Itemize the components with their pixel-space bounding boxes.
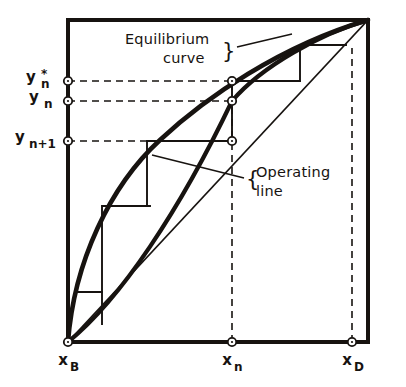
y-label-sub: n: [44, 97, 53, 111]
x-label-sub: B: [70, 360, 79, 374]
annotation-equilibrium-curve: Equilibrium curve }: [125, 31, 235, 66]
marker-xD: [348, 338, 356, 346]
x-axis-label-xD: x D: [342, 351, 364, 374]
leader-equilibrium: [237, 34, 292, 47]
marker-xn: [228, 338, 236, 346]
marker-xB: [64, 338, 72, 346]
annotation-operating-line: { Operating line: [246, 164, 330, 199]
marker-yn-axis: [64, 97, 72, 105]
equilibrium-label-line1: Equilibrium: [125, 31, 209, 47]
marker-yn-on-operating-line: [228, 97, 236, 105]
equilibrium-label-line2: curve: [163, 50, 205, 66]
y-label-base: y: [15, 128, 25, 146]
x-axis-labels: x B x n x D: [58, 351, 364, 374]
marker-yn-plus-1-axis: [64, 137, 72, 145]
x-label-base: x: [222, 351, 232, 369]
x-label-sub: D: [354, 360, 364, 374]
mccabe-thiele-figure: Equilibrium curve } { Operating line: [0, 0, 406, 387]
y-axis-label-yn-plus-1: y n+1: [15, 128, 56, 151]
x-label-base: x: [342, 351, 352, 369]
x-label-base: x: [58, 351, 68, 369]
y-label-sub: n+1: [29, 137, 56, 151]
equilibrium-brace: }: [222, 39, 235, 63]
y-axis-label-yn: y n: [29, 88, 52, 111]
y-label-sup: *: [41, 67, 48, 81]
leader-operating: [152, 155, 244, 178]
operating-label-line1: Operating: [256, 164, 330, 180]
operating-label-line2: line: [256, 183, 283, 199]
x-axis-label-xB: x B: [58, 351, 79, 374]
step-3: [147, 141, 232, 206]
x-axis-label-xn: x n: [222, 351, 242, 374]
marker-yn-star-on-curve: [228, 77, 236, 85]
y-label-base: y: [29, 88, 39, 106]
marker-yn-plus-1-on-operating-line: [228, 137, 236, 145]
y-axis-labels: y n * y n y n+1: [15, 67, 56, 151]
y-label-base: y: [26, 68, 36, 86]
marker-yn-star-axis: [64, 77, 72, 85]
x-label-sub: n: [234, 360, 243, 374]
